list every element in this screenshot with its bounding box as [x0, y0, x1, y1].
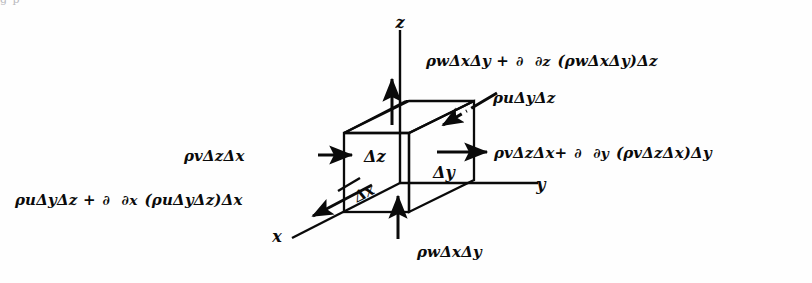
flux-top-numerator: ∂ — [513, 53, 527, 70]
axis-label-x: x — [272, 227, 282, 246]
flux-label-y-outflow: ρvΔzΔx+ ∂ ∂y (ρvΔzΔx)Δy — [493, 144, 713, 162]
flux-y-out-term-1: ρvΔzΔx+ — [493, 146, 568, 161]
flux-x-out-fraction: ∂ ∂x — [100, 193, 141, 208]
axis-label-z: z — [395, 13, 404, 32]
flux-top-term-2: (ρwΔxΔy)Δz — [557, 54, 659, 69]
flux-y-out-numerator: ∂ — [571, 145, 585, 162]
flux-top-term-1: ρwΔxΔy + — [425, 54, 510, 69]
flux-top-denominator: ∂z — [532, 52, 554, 69]
figure-container: g p — [0, 0, 812, 283]
flux-label-x-outflow: ρuΔyΔz + ∂ ∂x (ρuΔyΔz)Δx — [14, 191, 244, 209]
flux-x-out-numerator: ∂ — [100, 192, 114, 209]
flux-y-in-term: ρvΔzΔx — [183, 149, 245, 164]
flux-label-top-outflow: ρwΔxΔy + ∂ ∂z (ρwΔxΔy)Δz — [425, 52, 659, 70]
control-volume-drawing — [0, 0, 812, 283]
flux-bottom-term: ρwΔxΔy — [416, 245, 483, 260]
dimension-label-delta-z: Δz — [364, 147, 386, 166]
flux-x-out-term-2: (ρuΔyΔz)Δx — [144, 193, 244, 208]
axis-label-y: y — [536, 175, 545, 194]
axis-x-line — [292, 183, 400, 238]
flux-label-y-inflow: ρvΔzΔx — [183, 147, 245, 165]
flux-y-out-denominator: ∂y — [590, 144, 612, 161]
flux-x-in-term: ρuΔyΔz — [492, 91, 556, 106]
flux-y-out-fraction: ∂ ∂y — [571, 146, 612, 161]
flux-label-x-inflow: ρuΔyΔz — [492, 89, 556, 107]
flux-x-out-denominator: ∂x — [119, 191, 141, 208]
dimension-label-delta-y: Δy — [433, 163, 455, 182]
arrow-x-in — [443, 93, 497, 125]
flux-y-out-term-2: (ρvΔzΔx)Δy — [615, 146, 713, 161]
flux-top-fraction: ∂ ∂z — [513, 54, 554, 69]
cube-right-face — [409, 101, 474, 212]
flux-label-bottom-inflow: ρwΔxΔy — [416, 243, 483, 261]
flux-x-out-term-1: ρuΔyΔz + — [14, 193, 97, 208]
